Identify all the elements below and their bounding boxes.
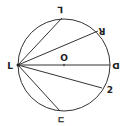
chord-left-top-right <box>18 31 98 65</box>
label-right: ᗡ <box>112 61 119 71</box>
center-dot <box>63 64 65 66</box>
label-bottom: ㄷ <box>57 115 65 125</box>
label-top-right: ꓤ <box>99 27 106 37</box>
circle-diagram: ⅂ ꓤ ᗡ 2 ㄷ L O <box>0 0 128 126</box>
label-top: ⅂ <box>57 5 62 15</box>
label-left: L <box>7 61 13 71</box>
label-center: O <box>60 53 68 63</box>
label-bottom-right: 2 <box>107 85 113 95</box>
chord-left-bottom-right <box>18 65 102 88</box>
left-point-dot <box>17 64 20 67</box>
